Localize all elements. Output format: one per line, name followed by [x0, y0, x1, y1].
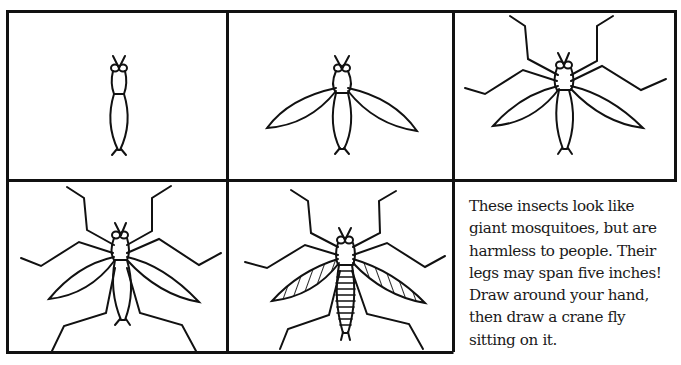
caption-line: giant mosquitoes, but are — [469, 217, 681, 239]
step-2-panel — [229, 13, 452, 179]
crane-fly-back-legs-sketch — [9, 183, 226, 351]
caption-line: harmless to people. Their — [469, 240, 681, 262]
step-5-panel — [229, 183, 452, 351]
step-3-panel — [455, 13, 674, 179]
crane-fly-front-legs-sketch — [455, 13, 674, 179]
step-4-panel — [9, 183, 226, 351]
step-1-panel — [9, 13, 226, 179]
crane-fly-body-sketch — [9, 13, 226, 179]
crane-fly-finished-sketch — [229, 183, 452, 351]
caption-line: then draw a crane fly — [469, 306, 681, 328]
caption-line: sitting on it. — [469, 329, 681, 351]
caption-text: These insects look like giant mosquitoes… — [469, 195, 681, 351]
drawing-instructions-page: These insects look like giant mosquitoes… — [0, 0, 681, 365]
caption-line: Draw around your hand, — [469, 284, 681, 306]
caption-line: legs may span five inches! — [469, 262, 681, 284]
crane-fly-wings-sketch — [229, 13, 452, 179]
caption-line: These insects look like — [469, 195, 681, 217]
